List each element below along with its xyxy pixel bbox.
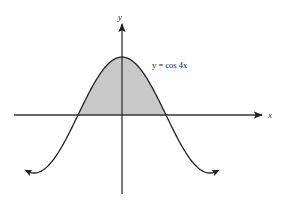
- x-axis-label: x: [267, 110, 272, 120]
- y-axis-label: y: [117, 12, 122, 22]
- cosine-area-chart: y x y = cos 4x: [0, 0, 281, 206]
- curve-right-arrow-icon: [215, 170, 218, 172]
- curve-equation-label: y = cos 4x: [152, 60, 188, 70]
- curve-left-arrow-icon: [26, 170, 29, 172]
